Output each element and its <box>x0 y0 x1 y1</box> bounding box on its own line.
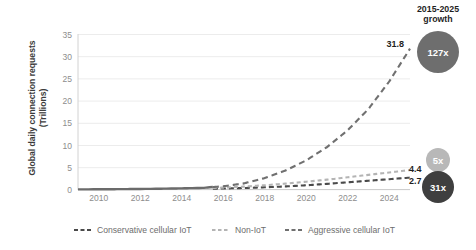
conservative-end-value: 2.7 <box>409 176 422 186</box>
gridlines <box>78 35 410 168</box>
growth-panel-title-line2: growth <box>423 14 452 24</box>
growth-panel-title-line1: 2015-2025 <box>417 4 459 14</box>
x-tick-2018: 2018 <box>255 193 274 203</box>
growth-badge-noniot-label: 5x <box>433 155 444 166</box>
y-tick-30: 30 <box>63 52 73 62</box>
y-axis-title-line1: Global daily connection requests <box>27 40 37 175</box>
series-layer <box>78 49 410 190</box>
x-tick-labels: 2010 2012 2014 2016 2018 2020 2022 2024 <box>89 193 399 203</box>
aggressive-end-value: 31.8 <box>386 39 404 49</box>
noniot-end-value: 4.4 <box>409 164 422 174</box>
chart-container: Global daily connection requests (Trilli… <box>0 0 476 250</box>
y-tick-0: 0 <box>67 185 72 195</box>
x-tick-2024: 2024 <box>380 193 399 203</box>
series-end-labels: 31.8 4.4 2.7 <box>386 39 421 186</box>
y-tick-20: 20 <box>63 96 73 106</box>
x-tick-2014: 2014 <box>172 193 191 203</box>
x-tick-2020: 2020 <box>297 193 316 203</box>
x-tick-2016: 2016 <box>214 193 233 203</box>
chart-svg: Global daily connection requests (Trilli… <box>0 0 476 250</box>
growth-badge-aggressive-label: 127x <box>427 47 449 58</box>
y-tick-25: 25 <box>63 74 73 84</box>
y-tick-15: 15 <box>63 118 73 128</box>
y-axis-title: Global daily connection requests (Trilli… <box>27 40 48 175</box>
x-tick-2022: 2022 <box>338 193 357 203</box>
chart-legend: Conservative cellular IoT Non-IoT Aggres… <box>74 225 396 235</box>
y-tick-35: 35 <box>63 30 73 40</box>
legend-label-noniot[interactable]: Non-IoT <box>235 225 267 235</box>
growth-panel: 2015-2025 growth 127x 5x 31x <box>417 4 459 203</box>
legend-label-conservative[interactable]: Conservative cellular IoT <box>97 225 192 235</box>
series-line-aggressive-cellular-iot <box>213 49 410 187</box>
y-tick-10: 10 <box>63 141 73 151</box>
y-axis-title-line2: (Trillions) <box>38 89 48 128</box>
x-tick-2012: 2012 <box>131 193 150 203</box>
x-tick-2010: 2010 <box>89 193 108 203</box>
y-tick-5: 5 <box>67 163 72 173</box>
growth-badge-conservative-label: 31x <box>430 182 447 193</box>
y-tick-labels: 35 30 25 20 15 10 5 0 <box>63 30 73 195</box>
series-line-historical <box>78 187 213 189</box>
legend-label-aggressive[interactable]: Aggressive cellular IoT <box>308 225 396 235</box>
